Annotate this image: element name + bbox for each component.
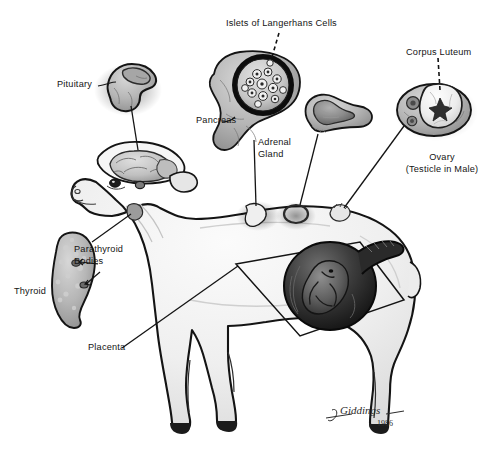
inset-adrenal [300,95,372,205]
sheep-eye-highlight [112,181,115,183]
label-ovary: Ovary (Testicle in Male) [396,152,488,175]
leader-pancreas-to-body [254,140,256,206]
endocrine-diagram-figure: Islets of Langerhans Cells Corpus Luteum… [0,0,488,467]
leader-islets-dashed [272,33,279,57]
label-adrenal-line1: Adrenal [258,137,291,147]
label-corpus-luteum: Corpus Luteum [406,47,471,59]
ovary-in-situ [330,203,350,221]
sheep-body-group [71,142,420,434]
label-pituitary: Pituitary [57,79,92,91]
label-ovary-line1: Ovary [429,152,455,162]
thyroid-in-situ [127,204,143,221]
sheep-ear [170,172,197,192]
label-placenta: Placenta [88,342,125,354]
leader-thyroid-to-body [92,214,131,242]
hooves [170,421,389,434]
label-parathyroid-line1: Parathyroid [74,244,123,254]
label-ovary-line2: (Testicle in Male) [406,164,479,174]
leader-ovary-to-body [344,126,404,208]
figure-artwork [0,0,488,467]
label-parathyroid-line2: Bodies [74,256,103,266]
label-pancreas: Pancreas [196,115,236,127]
sheep-eye [110,179,121,187]
artist-signature-name: Giddings [340,404,380,416]
label-parathyroid-bodies: Parathyroid Bodies [74,244,142,267]
inset-ovary [344,58,478,208]
label-islets-of-langerhans: Islets of Langerhans Cells [226,18,337,30]
pituitary-in-situ [135,181,144,188]
inset-thyroid [52,214,131,328]
label-thyroid: Thyroid [14,286,46,298]
artist-signature-year: 1986 [377,419,393,428]
sheep-tail [408,262,421,298]
pancreas-in-situ [236,201,280,231]
label-adrenal-gland: Adrenal Gland [258,137,304,160]
inset-pituitary [94,64,162,150]
label-adrenal-line2: Gland [258,149,284,159]
adrenal-in-situ [276,202,316,230]
